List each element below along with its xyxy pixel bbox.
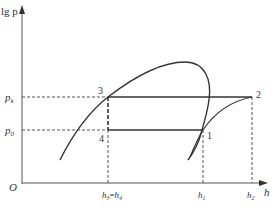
point-4-label: 4 <box>99 133 104 144</box>
p0-label: p0 <box>4 124 15 138</box>
pk-label: pk <box>4 91 15 105</box>
h3-h4-label: h3=h4 <box>102 190 122 201</box>
point-2-label: 2 <box>256 89 261 100</box>
x-axis-label: h <box>264 186 270 198</box>
compression-curve <box>190 97 252 157</box>
dashed-guides <box>22 97 252 183</box>
origin-label: O <box>9 181 17 193</box>
point-1-label: 1 <box>207 130 212 141</box>
point-3-label: 3 <box>98 85 103 96</box>
h1-label: h1 <box>198 190 206 201</box>
h2-label: h2 <box>247 190 255 201</box>
cycle-lines <box>108 97 252 130</box>
x-axis <box>22 180 268 186</box>
lgp-h-diagram: lg p h O pk p0 3 4 1 2 h3=h4 h1 h2 <box>0 0 276 208</box>
saturation-dome-curve <box>60 62 210 160</box>
y-axis <box>19 5 25 184</box>
y-axis-label: lg p <box>1 5 18 17</box>
y-axis-arrow-icon <box>19 5 25 14</box>
